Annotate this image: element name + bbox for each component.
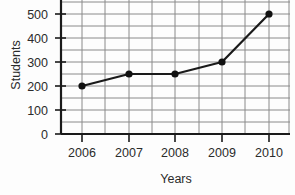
data-point-2006 xyxy=(78,82,85,89)
line-chart-figure: Students Years 500 400 300 200 100 0 200… xyxy=(0,0,295,195)
vertical-gridlines xyxy=(82,0,289,134)
plot-area-svg xyxy=(0,0,295,195)
x-tick-marks xyxy=(82,134,269,142)
data-point-2008 xyxy=(171,70,178,77)
data-point-2009 xyxy=(218,58,225,65)
data-point-2007 xyxy=(125,70,132,77)
data-point-2010 xyxy=(265,10,272,17)
